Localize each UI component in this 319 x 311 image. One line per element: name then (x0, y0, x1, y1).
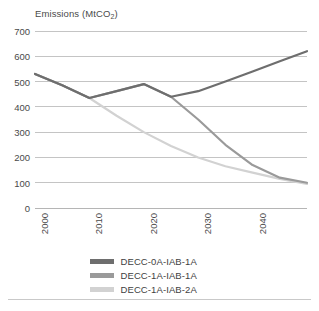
chart-legend: DECC-0A-IAB-1ADECC-1A-IAB-1ADECC-1A-IAB-… (0, 256, 319, 295)
legend-item-label: DECC-1A-IAB-1A (121, 270, 197, 281)
y-axis-tick-label: 200 (14, 152, 30, 163)
x-axis-tick-label: 2030 (202, 213, 213, 234)
legend-item[interactable]: DECC-1A-IAB-1A (90, 270, 230, 281)
x-axis-tick-label: 2000 (39, 213, 50, 234)
x-axis-tick-label: 2040 (257, 213, 268, 234)
legend-color-swatch (90, 259, 114, 264)
y-axis-title-main: Emissions (MtCO (35, 8, 110, 19)
y-axis-tick-label: 600 (14, 51, 30, 62)
y-axis-tick-label: 500 (14, 76, 30, 87)
y-axis-tick-label: 400 (14, 101, 30, 112)
y-axis-title: Emissions (MtCO2) (35, 8, 118, 19)
plot-area: 0100200300400500600700 (35, 31, 307, 208)
legend-item[interactable]: DECC-1A-IAB-2A (90, 284, 230, 295)
series-line (35, 51, 307, 98)
gridlines (35, 31, 307, 208)
y-axis-title-tail: ) (114, 8, 117, 19)
series-line (35, 74, 307, 183)
x-axis-tick-label: 2010 (93, 213, 104, 234)
legend-item-label: DECC-0A-IAB-1A (121, 256, 197, 267)
legend-item[interactable]: DECC-0A-IAB-1A (90, 256, 230, 267)
x-axis-tick-label: 2020 (148, 213, 159, 234)
series-lines (35, 51, 307, 184)
y-axis-tick-label: 700 (14, 26, 30, 37)
legend-item-label: DECC-1A-IAB-2A (121, 284, 197, 295)
legend-color-swatch (90, 287, 114, 292)
emissions-line-chart: Emissions (MtCO2) 0100200300400500600700… (0, 0, 319, 311)
plot-svg (35, 31, 307, 208)
y-axis-tick-label: 300 (14, 127, 30, 138)
legend-color-swatch (90, 273, 114, 278)
y-axis-tick-label: 100 (14, 177, 30, 188)
y-axis-title-subscript: 2 (110, 13, 114, 20)
y-axis-tick-label: 0 (25, 203, 30, 214)
bottom-divider (8, 299, 311, 300)
